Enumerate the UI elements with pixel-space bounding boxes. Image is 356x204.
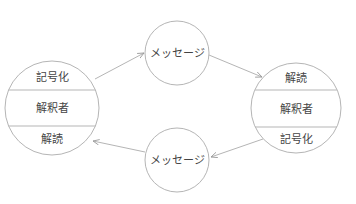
bottom-message-label: メッセージ (150, 155, 205, 166)
right-encode-label: 記号化 (280, 134, 313, 145)
arrow-right-to-bottom-message (211, 139, 263, 157)
left-encode-label: 記号化 (36, 72, 69, 83)
left-interpreter-label: 解釈者 (36, 103, 69, 114)
right-interpreter-label: 解釈者 (280, 104, 313, 115)
right-decode-label: 解読 (285, 73, 307, 84)
arrow-left-to-top-message (95, 53, 144, 79)
arrow-top-message-to-right (209, 55, 262, 77)
arrow-bottom-message-to-left (93, 141, 145, 152)
left-decode-label: 解読 (41, 134, 63, 145)
top-message-label: メッセージ (150, 48, 205, 59)
